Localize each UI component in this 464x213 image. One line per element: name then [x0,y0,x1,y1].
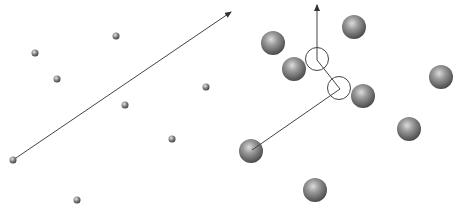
large-sphere [342,15,366,39]
small-particle [74,197,81,204]
large-sphere [351,84,375,108]
large-sphere [303,178,327,202]
small-particle [32,50,39,57]
large-sphere [429,65,453,89]
small-particle [10,157,17,164]
large-sphere [397,117,421,141]
trajectory-arrow [13,12,231,160]
small-particle [203,84,210,91]
small-particle [122,102,129,109]
diagram-canvas [0,0,464,213]
left-panel [10,12,232,204]
small-particle [113,33,120,40]
small-particle [169,136,176,143]
large-sphere [282,57,306,81]
small-particle [54,76,61,83]
right-panel [239,5,453,202]
large-sphere [239,139,263,163]
large-sphere [261,31,285,55]
particle-diagram [0,0,464,213]
